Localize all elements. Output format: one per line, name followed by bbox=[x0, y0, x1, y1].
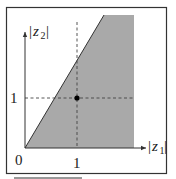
y-axis-subscript: 2 bbox=[41, 30, 46, 41]
y-tick-label-one: 1 bbox=[10, 90, 18, 106]
abs-bar-open: | bbox=[29, 23, 32, 39]
abs-bar-close: | bbox=[164, 138, 167, 154]
abs-bar-close: | bbox=[46, 23, 49, 39]
abs-bar-open: | bbox=[148, 138, 151, 154]
x-tick-label-one: 1 bbox=[73, 155, 81, 171]
origin-label: 0 bbox=[15, 152, 23, 168]
diagram-canvas: | z 2 | | z 1 | 1 0 1 bbox=[0, 0, 176, 179]
x-axis-variable: z bbox=[151, 138, 158, 154]
point-marker bbox=[74, 95, 79, 100]
y-axis-variable: z bbox=[32, 23, 39, 39]
x-axis-label: | z 1 | bbox=[148, 138, 167, 156]
